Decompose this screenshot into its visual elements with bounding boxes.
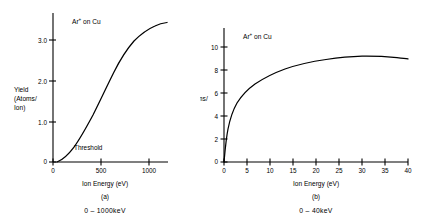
y-ticklabel-a-0: 0 (43, 158, 47, 165)
x-ticklabel-b-8: 40 (404, 167, 412, 174)
panel-caption-b: (b) (312, 193, 320, 201)
threshold-annotation: Threshold (74, 144, 103, 151)
x-ticklabel-a-0: 0 (51, 167, 55, 174)
x-ticklabel-b-4: 20 (312, 167, 320, 174)
x-ticklabel-a-1: 500 (96, 167, 107, 174)
panel-range-caption-b: 0 – 40keV (299, 207, 332, 214)
y-axis-label-b-line2: (Atoms/ (200, 95, 208, 103)
x-ticklabel-b-1: 5 (245, 167, 249, 174)
x-axis-label-b: Ion Energy (eV) (293, 180, 339, 188)
x-ticklabel-a-2: 1000 (142, 167, 157, 174)
x-ticklabel-b-0: 0 (222, 167, 226, 174)
y-axis-label-a-line3: Ion) (14, 104, 25, 112)
x-ticklabel-b-2: 10 (266, 167, 274, 174)
x-ticklabel-b-5: 25 (335, 167, 343, 174)
chart-a-svg: 0 1.0 2.0 3.0 0 500 1000 Ar+ on Cu Thres… (0, 0, 212, 218)
y-ticklabel-b-5: 10 (211, 44, 219, 51)
y-axis-label-a-line1: Yield (14, 86, 29, 93)
yield-curve-b (224, 56, 408, 162)
y-ticklabel-b-4: 8 (214, 67, 218, 74)
y-ticklabel-a-1: 1.0 (38, 119, 47, 126)
y-ticklabel-b-1: 2 (214, 136, 218, 143)
chart-panel-b: 0 2 4 6 8 10 0 5 10 15 20 25 30 35 40 (200, 0, 425, 218)
panel-caption-a: (a) (101, 193, 109, 201)
chart-b-title: Ar+ on Cu (243, 32, 272, 40)
yield-curve-a (57, 23, 167, 163)
x-ticklabel-b-6: 30 (358, 167, 366, 174)
y-ticklabel-a-3: 3.0 (38, 37, 47, 44)
y-ticklabel-b-0: 0 (214, 158, 218, 165)
x-ticklabel-b-7: 35 (381, 167, 389, 174)
sputtering-yield-figure: 0 1.0 2.0 3.0 0 500 1000 Ar+ on Cu Thres… (0, 0, 425, 218)
chart-b-svg: 0 2 4 6 8 10 0 5 10 15 20 25 30 35 40 (200, 0, 425, 218)
chart-panel-a: 0 1.0 2.0 3.0 0 500 1000 Ar+ on Cu Thres… (0, 0, 212, 218)
x-ticklabel-b-3: 15 (289, 167, 297, 174)
chart-a-title: Ar+ on Cu (72, 17, 101, 25)
y-axis-label-a-line2: (Atoms/ (14, 95, 37, 103)
x-axis-label-a: Ion Energy (eV) (82, 180, 128, 188)
y-ticklabel-b-3: 6 (214, 90, 218, 97)
y-ticklabel-a-2: 2.0 (38, 78, 47, 85)
y-ticklabel-b-2: 4 (214, 113, 218, 120)
panel-range-caption-a: 0 – 1000keV (84, 207, 126, 214)
